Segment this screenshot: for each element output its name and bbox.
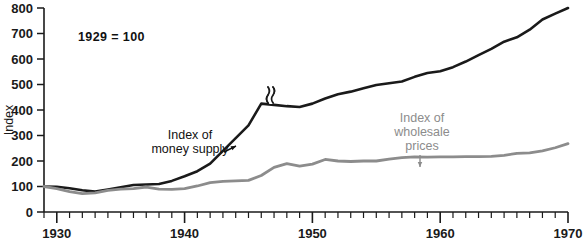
x-tick-label: 1960 <box>426 226 455 240</box>
base-year-note: 1929 = 100 <box>78 30 145 44</box>
y-tick-label: 100 <box>11 179 33 194</box>
annotation-line: wholesale <box>393 125 450 139</box>
x-tick-label: 1950 <box>298 226 327 240</box>
x-axis-ticks <box>44 212 568 223</box>
x-tick-label: 1970 <box>554 226 583 240</box>
annotation-wholesale-prices: Index ofwholesaleprices <box>393 111 450 153</box>
break-slash <box>267 87 270 103</box>
y-tick-label: 600 <box>11 52 33 67</box>
annotation-line: prices <box>405 139 438 153</box>
x-axis-tick-labels: 19301940195019601970 <box>42 226 582 240</box>
series-break-marker <box>267 87 275 104</box>
y-tick-label: 700 <box>11 26 33 41</box>
x-tick-label: 1930 <box>42 226 71 240</box>
y-axis-ticks <box>37 8 44 212</box>
annotation-line: Index of <box>168 128 213 142</box>
annotation-line: Index of <box>400 111 445 125</box>
x-tick-label: 1940 <box>170 226 199 240</box>
line-chart: 0100200300400500600700800 19301940195019… <box>0 0 585 240</box>
annotation-arrow-head <box>418 162 422 167</box>
y-tick-label: 200 <box>11 154 33 169</box>
y-tick-label: 800 <box>11 1 33 16</box>
y-axis-title: Index <box>2 104 16 135</box>
chart-container: 0100200300400500600700800 19301940195019… <box>0 0 585 240</box>
y-tick-label: 500 <box>11 77 33 92</box>
annotation-line: money supply <box>151 142 229 156</box>
annotation-money-supply: Index ofmoney supply <box>151 128 229 156</box>
y-tick-label: 0 <box>26 205 33 220</box>
